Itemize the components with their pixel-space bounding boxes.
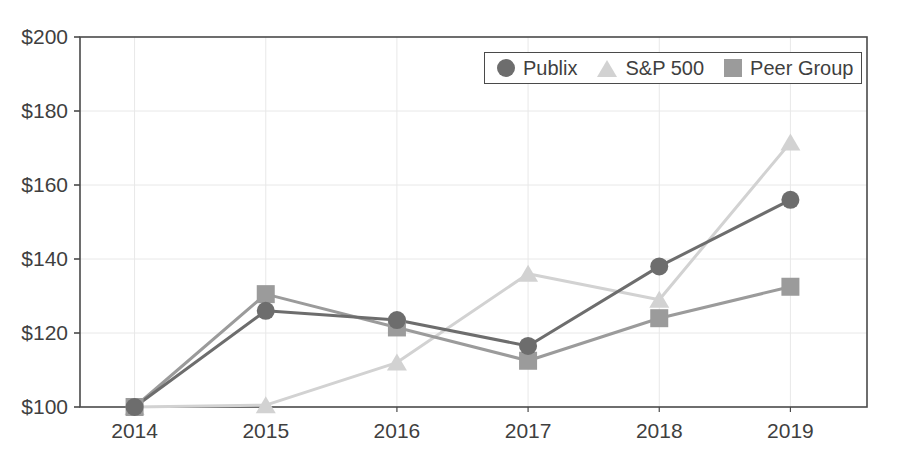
legend-item-publix[interactable]: Publix	[497, 57, 577, 80]
x-tick-2015: 2015	[242, 419, 289, 443]
series-markers-publix	[126, 191, 800, 416]
series-markers-s-p-500	[125, 133, 801, 415]
x-tick-2018: 2018	[636, 419, 683, 443]
chart-legend: PublixS&P 500Peer Group	[484, 52, 862, 84]
series-line-s-p-500	[135, 142, 791, 407]
series-line-peer-group	[135, 287, 791, 407]
series-line-publix	[135, 200, 791, 407]
y-tick-140: $140	[21, 247, 68, 271]
x-tick-2016: 2016	[374, 419, 421, 443]
performance-line-chart: $100$120$140$160$180$200 201420152016201…	[0, 0, 900, 460]
legend-item-peer-group[interactable]: Peer Group	[724, 57, 853, 80]
triangle-marker-icon	[597, 60, 617, 77]
y-tick-200: $200	[21, 25, 68, 49]
legend-item-s-p-500[interactable]: S&P 500	[597, 57, 704, 80]
circle-marker-icon	[497, 59, 515, 77]
x-tick-2014: 2014	[111, 419, 158, 443]
axis-ticks	[74, 37, 790, 412]
legend-label: Publix	[523, 57, 577, 80]
legend-label: Peer Group	[750, 57, 853, 80]
y-tick-100: $100	[21, 395, 68, 419]
y-tick-180: $180	[21, 99, 68, 123]
y-tick-120: $120	[21, 321, 68, 345]
series-markers-peer-group	[126, 278, 800, 416]
square-marker-icon	[724, 59, 742, 77]
legend-label: S&P 500	[625, 57, 704, 80]
x-tick-2017: 2017	[505, 419, 552, 443]
x-tick-2019: 2019	[767, 419, 814, 443]
y-tick-160: $160	[21, 173, 68, 197]
